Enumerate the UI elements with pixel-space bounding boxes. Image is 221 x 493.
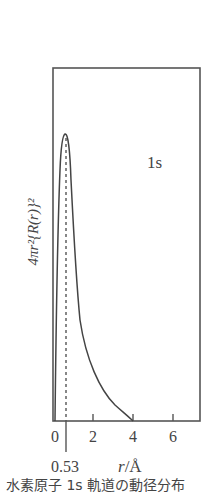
y-axis-label: 4πr²{R(r)}² [25,198,42,265]
series-label-1s: 1s [147,153,162,172]
x-tick-label-0: 0 [51,428,59,445]
x-tick-label-2: 2 [89,428,97,445]
x-axis-label-unit: /Å [125,457,143,476]
figure-caption: 水素原子 1s 軌道の動径分布 [6,476,221,493]
x-axis-ticks [93,414,173,421]
x-tick-label-4: 4 [129,428,137,445]
peak-marker-label: 0.53 [51,458,79,475]
x-tick-label-6: 6 [169,428,177,445]
x-axis-label: r/Å [118,457,142,476]
radial-distribution-chart: 0 2 4 6 0.53 r/Å 1s 4πr²{R(r)}² [0,0,221,493]
